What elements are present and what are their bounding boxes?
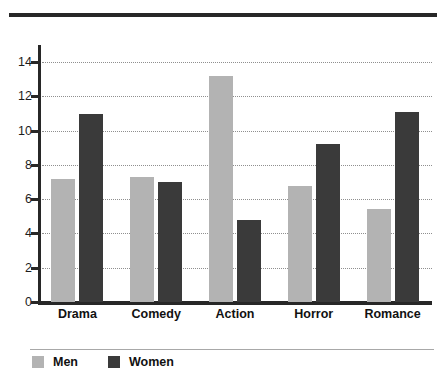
y-axis-tick-mark — [31, 164, 41, 167]
bar-drama-men — [51, 179, 75, 302]
y-axis-tick-mark — [31, 232, 41, 235]
y-axis-tick-mark — [31, 267, 41, 270]
legend-label: Men — [53, 356, 78, 369]
bar-horror-men — [288, 186, 312, 303]
legend-divider-rule — [30, 349, 434, 350]
bar-action-women — [237, 220, 261, 302]
bar-group — [353, 45, 432, 302]
y-axis-tick-mark — [31, 61, 41, 64]
category-label-horror: Horror — [274, 307, 353, 321]
y-axis-tick-label: 10 — [18, 124, 32, 137]
y-axis-tick-mark — [31, 198, 41, 201]
legend-swatch-icon — [108, 356, 120, 368]
bar-action-men — [209, 76, 233, 302]
y-axis-tick-mark — [31, 95, 41, 98]
bar-comedy-men — [130, 177, 154, 302]
bar-group — [38, 45, 117, 302]
top-divider-rule — [9, 13, 437, 17]
y-axis-tick-mark — [31, 130, 41, 133]
legend-swatch-icon — [32, 356, 44, 368]
bar-romance-women — [395, 112, 419, 302]
category-label-action: Action — [196, 307, 275, 321]
y-axis-tick-label: 12 — [18, 90, 32, 103]
category-label-comedy: Comedy — [117, 307, 196, 321]
bar-horror-women — [316, 144, 340, 302]
bar-group — [274, 45, 353, 302]
y-axis-tick-mark — [31, 301, 41, 304]
y-axis-tick-label: 14 — [18, 56, 32, 69]
legend-item-women[interactable]: Women — [108, 356, 174, 369]
legend-item-men[interactable]: Men — [32, 356, 78, 369]
legend-label: Women — [129, 356, 174, 369]
category-label-drama: Drama — [38, 307, 117, 321]
chart-legend: MenWomen — [32, 356, 174, 369]
bar-chart-figure: 02468101214 DramaComedyActionHorrorRoman… — [0, 0, 446, 376]
bar-drama-women — [79, 114, 103, 302]
bar-group — [117, 45, 196, 302]
category-label-romance: Romance — [353, 307, 432, 321]
bar-romance-men — [367, 209, 391, 302]
bars-layer — [38, 45, 432, 302]
bar-group — [196, 45, 275, 302]
bar-comedy-women — [158, 182, 182, 302]
